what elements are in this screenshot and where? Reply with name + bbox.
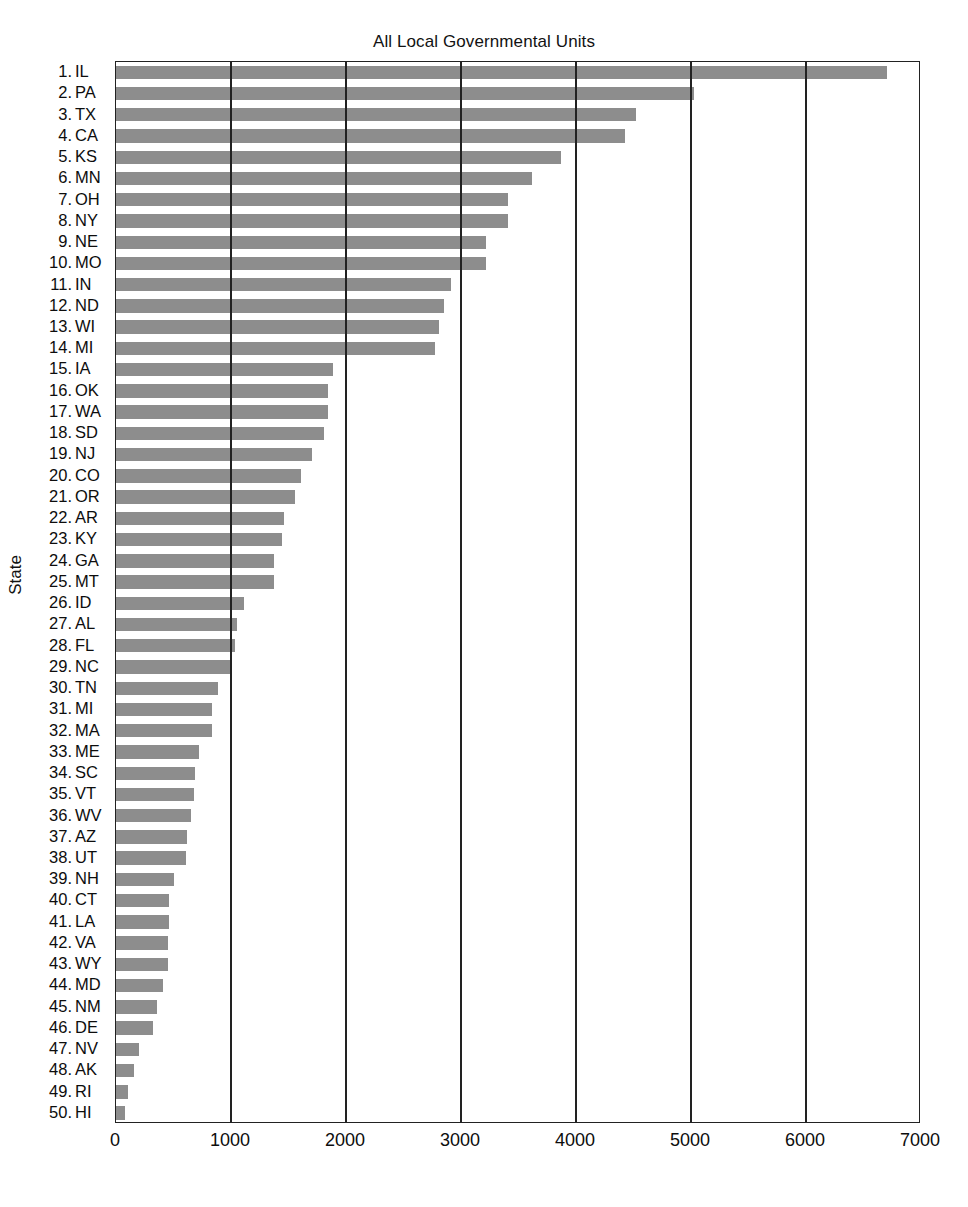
y-tick-label: 23.KY [0, 530, 108, 546]
bar[interactable] [116, 639, 235, 652]
y-tick-state: VA [75, 934, 108, 950]
y-tick-rank: 13. [49, 317, 72, 335]
bar[interactable] [116, 384, 328, 397]
bar[interactable] [116, 703, 212, 716]
bar[interactable] [116, 958, 168, 971]
bar[interactable] [116, 151, 561, 164]
y-tick-state: NC [75, 658, 108, 674]
bar[interactable] [116, 490, 295, 503]
y-tick-state: NE [75, 233, 108, 249]
y-tick-state: NM [75, 998, 108, 1014]
y-tick-state: KS [75, 148, 108, 164]
bar[interactable] [116, 851, 186, 864]
y-tick-rank: 10. [49, 253, 72, 271]
bar[interactable] [116, 788, 194, 801]
bar[interactable] [116, 193, 508, 206]
bar[interactable] [116, 214, 508, 227]
bar[interactable] [116, 299, 444, 312]
y-tick-label: 6.MN [0, 169, 108, 185]
bar[interactable] [116, 129, 625, 142]
y-tick-label: 15.IA [0, 360, 108, 376]
y-tick-state: RI [75, 1083, 108, 1099]
bar[interactable] [116, 236, 486, 249]
bar[interactable] [116, 172, 532, 185]
y-tick-label: 20.CO [0, 467, 108, 483]
y-tick-state: OH [75, 191, 108, 207]
y-tick-label: 50.HI [0, 1104, 108, 1120]
bar[interactable] [116, 512, 284, 525]
bar[interactable] [116, 427, 324, 440]
bar[interactable] [116, 745, 199, 758]
y-tick-state: WA [75, 403, 108, 419]
y-tick-label: 42.VA [0, 934, 108, 950]
x-tick-label: 5000 [645, 1130, 735, 1151]
y-tick-label: 33.ME [0, 743, 108, 759]
gridline [460, 62, 462, 1122]
y-tick-rank: 37. [49, 827, 72, 845]
bar[interactable] [116, 1021, 153, 1034]
y-tick-rank: 14. [49, 338, 72, 356]
bar[interactable] [116, 257, 486, 270]
y-tick-state: AK [75, 1061, 108, 1077]
bar[interactable] [116, 1000, 157, 1013]
y-tick-state: WI [75, 318, 108, 334]
bar[interactable] [116, 724, 212, 737]
y-tick-rank: 48. [49, 1060, 72, 1078]
y-tick-state: SD [75, 424, 108, 440]
bar[interactable] [116, 1106, 125, 1119]
bar[interactable] [116, 108, 636, 121]
bar[interactable] [116, 809, 191, 822]
bar[interactable] [116, 575, 274, 588]
x-tick-label: 6000 [760, 1130, 850, 1151]
bar[interactable] [116, 894, 169, 907]
y-tick-state: FL [75, 637, 108, 653]
y-tick-label: 8.NY [0, 212, 108, 228]
y-tick-label: 17.WA [0, 403, 108, 419]
y-tick-rank: 49. [49, 1082, 72, 1100]
bar[interactable] [116, 469, 301, 482]
bar[interactable] [116, 342, 435, 355]
bar[interactable] [116, 830, 187, 843]
bar[interactable] [116, 533, 282, 546]
bar[interactable] [116, 597, 244, 610]
y-tick-rank: 47. [49, 1039, 72, 1057]
y-tick-state: ND [75, 297, 108, 313]
y-tick-rank: 34. [49, 763, 72, 781]
bar[interactable] [116, 915, 169, 928]
y-tick-rank: 21. [49, 487, 72, 505]
y-tick-label: 25.MT [0, 573, 108, 589]
bar[interactable] [116, 660, 231, 673]
bar[interactable] [116, 405, 328, 418]
y-tick-label: 30.TN [0, 679, 108, 695]
y-tick-rank: 25. [49, 572, 72, 590]
bar[interactable] [116, 1085, 128, 1098]
bar[interactable] [116, 87, 694, 100]
y-tick-rank: 45. [49, 997, 72, 1015]
bar[interactable] [116, 278, 451, 291]
bar[interactable] [116, 936, 168, 949]
y-tick-label: 2.PA [0, 84, 108, 100]
bar[interactable] [116, 873, 174, 886]
y-tick-state: CO [75, 467, 108, 483]
y-tick-label: 48.AK [0, 1061, 108, 1077]
bar[interactable] [116, 554, 274, 567]
bar[interactable] [116, 1043, 139, 1056]
y-tick-label: 28.FL [0, 637, 108, 653]
y-tick-state: MT [75, 573, 108, 589]
bar[interactable] [116, 618, 237, 631]
bar[interactable] [116, 363, 333, 376]
y-tick-rank: 50. [49, 1103, 72, 1121]
x-tick-label: 2000 [300, 1130, 390, 1151]
bar[interactable] [116, 979, 163, 992]
y-tick-rank: 17. [49, 402, 72, 420]
y-tick-state: WY [75, 955, 108, 971]
y-tick-rank: 4. [58, 126, 72, 144]
bar[interactable] [116, 682, 218, 695]
bar[interactable] [116, 320, 439, 333]
y-tick-label: 22.AR [0, 509, 108, 525]
bar[interactable] [116, 448, 312, 461]
bar[interactable] [116, 767, 195, 780]
y-tick-rank: 7. [58, 190, 72, 208]
bar[interactable] [116, 1064, 134, 1077]
y-tick-state: NY [75, 212, 108, 228]
